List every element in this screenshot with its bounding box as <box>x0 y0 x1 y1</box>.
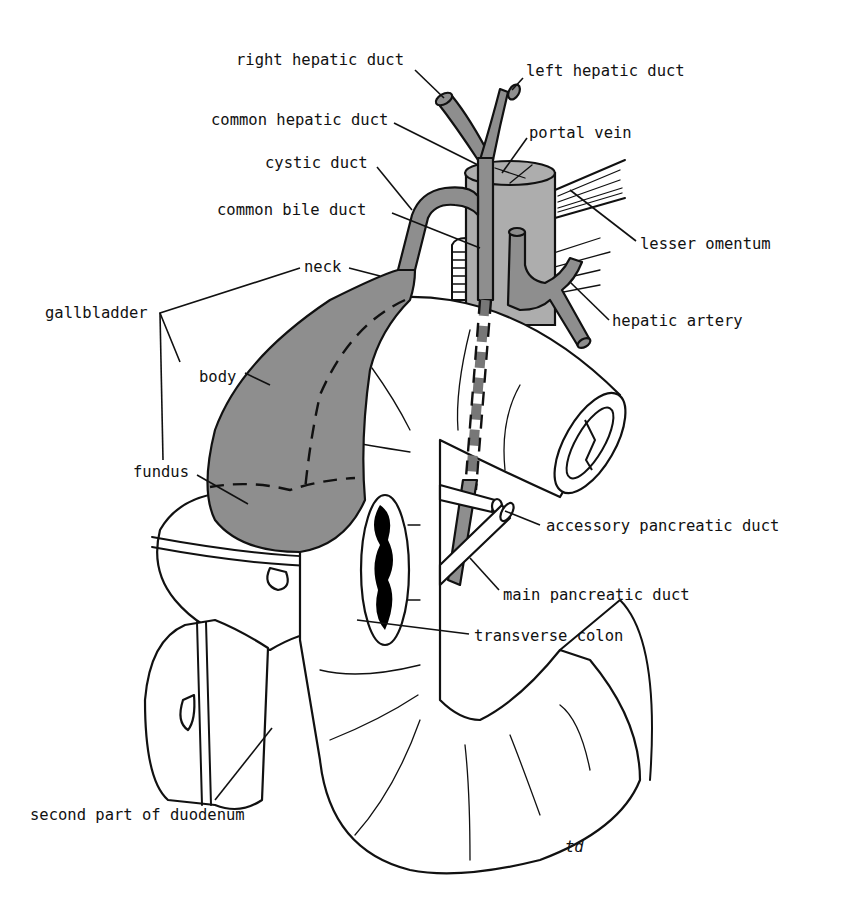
label-body: body <box>199 368 236 386</box>
label-second-part-of-duodenum: second part of duodenum <box>30 806 245 824</box>
artist-signature: td <box>565 838 584 856</box>
label-common-bile-duct: common bile duct <box>217 201 366 219</box>
label-right-hepatic-duct: right hepatic duct <box>236 51 404 69</box>
label-transverse-colon: transverse colon <box>474 627 623 645</box>
label-left-hepatic-duct: left hepatic duct <box>526 62 685 80</box>
label-hepatic-artery: hepatic artery <box>612 312 743 330</box>
label-accessory-pancreatic-duct: accessory pancreatic duct <box>546 517 779 535</box>
pancreatic-ducts-shape <box>440 485 516 585</box>
label-fundus: fundus <box>133 463 189 481</box>
label-main-pancreatic-duct: main pancreatic duct <box>503 586 690 604</box>
label-neck: neck <box>304 258 342 276</box>
label-gallbladder: gallbladder <box>45 304 148 322</box>
label-lesser-omentum: lesser omentum <box>640 235 771 253</box>
label-portal-vein: portal vein <box>529 124 632 142</box>
label-cystic-duct: cystic duct <box>265 154 368 172</box>
ligament-lines <box>452 238 466 300</box>
label-common-hepatic-duct: common hepatic duct <box>211 111 388 129</box>
anatomy-diagram: td right hepatic duct left hepatic duct … <box>0 0 844 907</box>
